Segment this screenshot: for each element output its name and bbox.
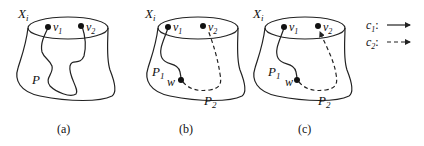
panel-c: Xi v1 v2 w P1 P2 (c)	[252, 6, 352, 136]
vertex-v1	[165, 24, 171, 30]
vertex-w	[178, 77, 184, 83]
vertex-w	[294, 77, 300, 83]
set-label-x: Xi	[252, 6, 264, 23]
panel-a: Xi v1 v2 P (a)	[17, 6, 115, 136]
vertex-v2	[78, 23, 84, 29]
caption-b: (b)	[179, 122, 193, 136]
path-label-p: P	[31, 72, 40, 87]
diagram-canvas: Xi v1 v2 P (a) Xi v1 v2 w P1 P2 (b) Xi v…	[0, 0, 424, 146]
top-rim	[265, 17, 345, 39]
vertex-label-v1: v1	[53, 20, 62, 36]
panel-b: Xi v1 v2 w P1 P2 (b)	[144, 6, 245, 136]
top-rim	[28, 17, 108, 39]
vertex-label-v1: v1	[173, 20, 182, 36]
legend-label-c1: c1:	[366, 18, 379, 34]
vertex-v1	[281, 24, 287, 30]
vertex-v2	[200, 23, 206, 29]
vertex-v2	[315, 23, 321, 29]
vertex-label-w: w	[285, 75, 293, 89]
path-p2	[299, 32, 337, 91]
vertex-label-v2: v2	[86, 20, 95, 36]
vertex-label-v2: v2	[323, 20, 332, 36]
set-label-x: Xi	[17, 6, 29, 23]
set-label-x: Xi	[144, 6, 156, 23]
path-label-p1: P1	[267, 64, 280, 81]
path-label-p2: P2	[203, 93, 217, 110]
caption-a: (a)	[57, 122, 70, 136]
vertex-label-w: w	[167, 75, 175, 89]
path-label-p2: P2	[317, 93, 331, 110]
legend-label-c2: c2:	[366, 35, 379, 51]
vertex-v1	[45, 24, 51, 30]
path-label-p1: P1	[151, 64, 164, 81]
caption-c: (c)	[298, 122, 311, 136]
vertex-label-v1: v1	[289, 20, 298, 36]
vertex-label-v2: v2	[208, 20, 217, 36]
path-p	[41, 26, 85, 95]
legend: c1: c2:	[366, 18, 410, 51]
